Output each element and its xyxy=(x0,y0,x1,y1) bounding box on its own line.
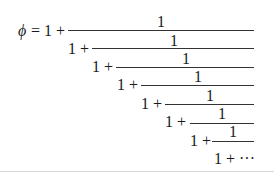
lead-term: 1 + xyxy=(44,23,65,39)
fraction-bar xyxy=(141,85,254,86)
level-numerator: 1 xyxy=(229,124,237,140)
bottom-divider xyxy=(0,171,274,172)
level-numerator: 1 xyxy=(182,51,190,67)
fraction-bar xyxy=(165,104,254,105)
level-numerator: 1 xyxy=(194,69,202,85)
level-prefix: 1 + xyxy=(141,96,162,112)
level-numerator: 1 xyxy=(206,88,214,104)
phi-symbol: ϕ xyxy=(18,23,26,39)
level-prefix: 1 + xyxy=(117,77,138,93)
level-prefix: 1 + xyxy=(165,114,186,130)
numerator: 1 xyxy=(157,14,165,30)
fraction-bar xyxy=(92,48,254,49)
fraction-bar xyxy=(116,67,254,68)
level-prefix: 1 + xyxy=(92,59,113,75)
level-prefix: 1 + xyxy=(68,41,89,57)
fraction-bar xyxy=(190,123,254,124)
fraction-bar xyxy=(68,30,254,31)
level-prefix: 1 + xyxy=(190,133,211,149)
level-numerator: 1 xyxy=(218,106,226,122)
tail-term: 1 + ··· xyxy=(214,151,255,167)
equals-sign: = xyxy=(31,23,40,39)
level-numerator: 1 xyxy=(170,33,178,49)
fraction-bar xyxy=(212,141,254,142)
